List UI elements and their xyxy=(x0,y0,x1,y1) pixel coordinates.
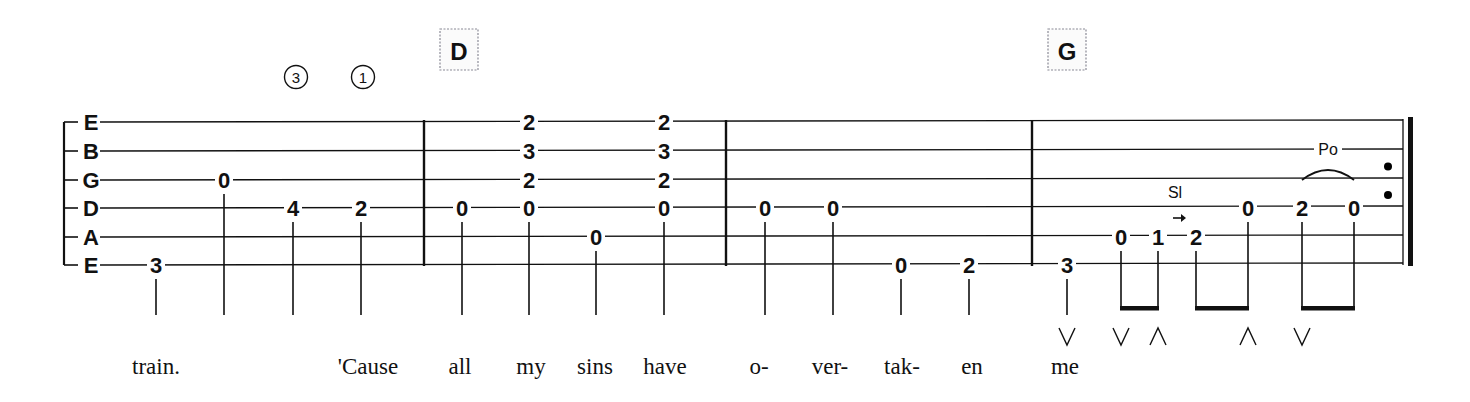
eighth-beam xyxy=(1195,306,1249,311)
lyric-syllable: ver- xyxy=(812,354,849,379)
string-number: 3 xyxy=(292,69,300,86)
fret-number: 0 xyxy=(1348,196,1360,221)
lyric-syllable: train. xyxy=(132,354,180,379)
chord-name: D xyxy=(450,38,467,65)
string-label: D xyxy=(83,196,99,221)
fret-number: 2 xyxy=(355,196,367,221)
lyric-syllable: sins xyxy=(577,354,613,379)
slide-arrowhead-icon xyxy=(1181,214,1186,222)
fret-number: 0 xyxy=(523,196,535,221)
fret-number: 3 xyxy=(150,253,162,278)
upstroke-icon xyxy=(1150,328,1166,345)
lyric-syllable: tak- xyxy=(884,354,920,379)
final-barline-thick xyxy=(1408,117,1413,266)
fret-number: 0 xyxy=(218,168,230,193)
eighth-beam xyxy=(1301,306,1355,311)
pull-off-label: Po xyxy=(1318,141,1338,158)
string-label: B xyxy=(83,139,99,164)
fret-number: 2 xyxy=(658,168,670,193)
eighth-beam xyxy=(1120,306,1159,311)
tablature-sheet: EBGDAEDG313042023200232000023012020SlPot… xyxy=(0,0,1470,402)
fret-number: 1 xyxy=(1152,225,1164,250)
fret-number: 0 xyxy=(1115,225,1127,250)
fret-number: 0 xyxy=(759,196,771,221)
fret-number: 0 xyxy=(1242,196,1254,221)
string-label: E xyxy=(84,110,99,135)
lyric-syllable: my xyxy=(516,354,546,379)
lyric-syllable: all xyxy=(449,354,472,379)
repeat-dot xyxy=(1384,163,1392,171)
fret-number: 0 xyxy=(590,225,602,250)
string-line-1 xyxy=(100,149,1403,151)
downstroke-icon xyxy=(1113,328,1129,345)
fret-number: 2 xyxy=(523,110,535,135)
fret-number: 2 xyxy=(658,110,670,135)
lyric-syllable: o- xyxy=(749,354,768,379)
lyric-syllable: have xyxy=(643,354,686,379)
tab-staff: EBGDAEDG313042023200232000023012020SlPot… xyxy=(0,0,1470,402)
string-label: A xyxy=(83,225,99,250)
string-line-0 xyxy=(100,120,1403,122)
chord-name: G xyxy=(1058,38,1077,65)
string-label: G xyxy=(82,168,99,193)
fret-number: 0 xyxy=(456,196,468,221)
string-number: 1 xyxy=(359,69,367,86)
fret-number: 3 xyxy=(1061,253,1073,278)
fret-number: 0 xyxy=(895,253,907,278)
upstroke-icon xyxy=(1240,328,1256,345)
lyric-syllable: en xyxy=(961,354,983,379)
fret-number: 0 xyxy=(827,196,839,221)
string-line-5 xyxy=(100,263,1403,265)
lyric-syllable: 'Cause xyxy=(338,354,398,379)
lyric-syllable: me xyxy=(1051,354,1079,379)
downstroke-icon xyxy=(1059,328,1075,345)
string-line-4 xyxy=(100,235,1403,237)
string-label: E xyxy=(84,253,99,278)
fret-number: 3 xyxy=(523,139,535,164)
fret-number: 2 xyxy=(963,253,975,278)
fret-number: 2 xyxy=(1190,225,1202,250)
fret-number: 0 xyxy=(658,196,670,221)
fret-number: 4 xyxy=(287,196,300,221)
fret-number: 3 xyxy=(658,139,670,164)
downstroke-icon xyxy=(1294,328,1310,345)
fret-number: 2 xyxy=(523,168,535,193)
fret-number: 2 xyxy=(1296,196,1308,221)
repeat-dot xyxy=(1384,191,1392,199)
slide-label: Sl xyxy=(1168,184,1182,201)
string-line-2 xyxy=(100,178,1403,180)
